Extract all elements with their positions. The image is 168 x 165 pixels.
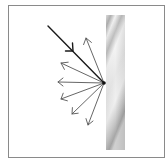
reflecting-surface bbox=[106, 15, 125, 150]
reflected-ray bbox=[72, 83, 104, 114]
reflected-ray bbox=[61, 83, 104, 101]
reflected-ray bbox=[61, 62, 104, 83]
reflected-ray bbox=[58, 78, 104, 86]
diffuse-reflection-diagram bbox=[0, 0, 168, 165]
contact-point bbox=[102, 81, 106, 85]
incident-ray bbox=[48, 26, 104, 83]
reflected-ray bbox=[84, 38, 104, 83]
reflected-ray bbox=[86, 83, 104, 125]
